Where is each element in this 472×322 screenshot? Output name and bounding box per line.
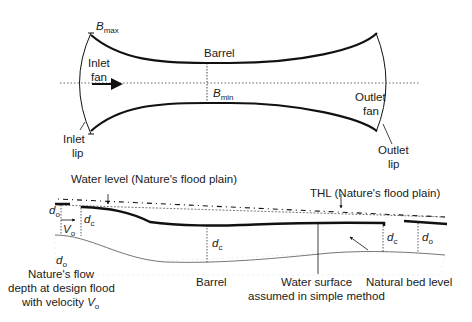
bmin-label: Bmin — [213, 87, 234, 102]
nature-flow-line-1: Nature's flow — [28, 268, 95, 280]
profile-view: Water level (Nature's flood plain) THL (… — [8, 173, 452, 311]
inlet-lip-arc — [80, 33, 92, 134]
dc-label-inlet: dc — [84, 213, 94, 228]
plan-view: Bmax Barrel Bmin Inlet fan Outlet fan In… — [60, 20, 420, 170]
bmax-label: Bmax — [96, 20, 119, 35]
outlet-lip-label-2: lip — [388, 158, 400, 170]
water-surface-line — [82, 207, 384, 226]
lower-wall — [91, 103, 377, 131]
inlet-lip-label-2: lip — [72, 147, 84, 159]
inlet-fan-label-1: Inlet — [88, 57, 111, 69]
natural-bed-label: Natural bed level — [366, 276, 452, 288]
outlet-fan-label-2: fan — [363, 105, 379, 117]
inlet-fan-label-2: fan — [91, 71, 107, 83]
culvert-diagram: Bmax Barrel Bmin Inlet fan Outlet fan In… — [0, 0, 472, 322]
barrel-profile-label: Barrel — [196, 276, 227, 288]
dc-label-barrel: dc — [212, 237, 222, 252]
water-level-line — [58, 199, 445, 217]
water-level-label: Water level (Nature's flood plain) — [71, 173, 237, 185]
do-label-right: do — [422, 231, 433, 246]
do-label-caption: do — [56, 254, 67, 269]
inlet-lip-label-1: Inlet — [63, 133, 86, 145]
water-surface-label-2: assumed in simple method — [248, 290, 385, 302]
nature-flow-line-2: depth at design flood — [8, 282, 115, 294]
do-label-left: do — [49, 204, 60, 219]
water-surface-label-1: Water surface — [281, 276, 352, 288]
outlet-lip-arc — [376, 33, 386, 132]
dc-label-outlet: dc — [387, 231, 397, 246]
barrel-label: Barrel — [204, 47, 235, 59]
thl-label: THL (Nature's flood plain) — [310, 187, 440, 199]
nature-flow-line-3: with velocity Vo — [21, 296, 100, 311]
outlet-lip-label-1: Outlet — [378, 144, 409, 156]
outlet-fan-label-1: Outlet — [355, 91, 386, 103]
